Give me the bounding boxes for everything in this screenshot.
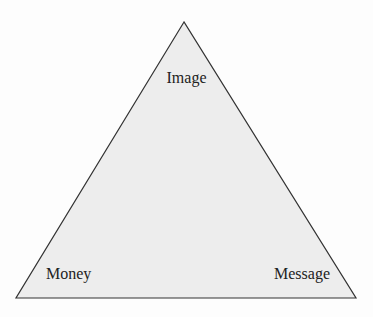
triangle-outline — [16, 22, 356, 298]
vertex-label-money: Money — [46, 265, 91, 283]
vertex-label-image: Image — [0, 69, 373, 87]
triangle-diagram: Image Money Message — [0, 0, 373, 317]
vertex-label-message: Message — [274, 265, 330, 283]
